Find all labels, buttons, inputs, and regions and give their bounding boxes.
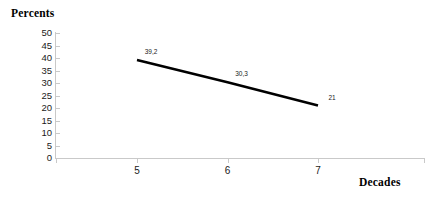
data-point-label: 39,2 [145,49,158,56]
line-chart: Percents Decades 50454035302520151050 56… [0,0,430,197]
data-point-label: 30,3 [235,71,248,78]
series-line-percents [0,0,430,197]
data-point-label: 21 [328,95,335,102]
